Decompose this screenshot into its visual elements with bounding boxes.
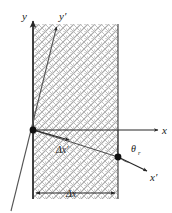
x-prime-axis-label: x′ <box>149 171 158 183</box>
delta-x-prime-label: Δx′ <box>55 144 69 155</box>
y-axis-label: y <box>21 10 27 22</box>
slab-region <box>33 24 118 199</box>
x-axis-label: x <box>161 124 167 136</box>
figure-container: y y′ x x′ Δx′ Δx θ r <box>0 0 172 213</box>
theta-subscript: r <box>138 149 141 156</box>
diagram-canvas: y y′ x x′ Δx′ Δx θ r <box>0 0 172 213</box>
y-prime-axis-label: y′ <box>58 10 67 22</box>
theta-symbol: θ <box>131 143 136 154</box>
origin-point <box>30 127 37 134</box>
delta-x-label: Δx <box>65 188 77 199</box>
exit-point <box>115 154 122 161</box>
theta-label: θ r <box>131 143 141 156</box>
